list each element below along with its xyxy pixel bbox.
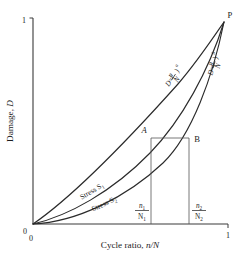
stress-s2-curve xyxy=(33,22,224,224)
curves-group xyxy=(33,22,224,224)
fraction-n2-numerator-subscript: 2 xyxy=(200,205,203,211)
y-axis-title-prefix: Damage, xyxy=(5,107,15,142)
stress-s2-label-group: Stress S2 xyxy=(90,194,118,214)
fraction-n1-numerator-subscript: 1 xyxy=(143,205,146,211)
fraction-n1-numerator: n1 xyxy=(139,202,146,211)
axes-group xyxy=(30,18,229,228)
fraction-n2-numerator: n2 xyxy=(196,202,203,211)
y-axis-min-label: 0 xyxy=(23,227,27,236)
construction-lines-group xyxy=(151,138,189,224)
fraction-n2-group: n2 N2 xyxy=(192,202,206,222)
figure-svg: 1 0 0 1 Cycle ratio, n/N Damage, D P A B… xyxy=(0,0,250,257)
x-axis-title: Cycle ratio, n/N xyxy=(101,240,160,250)
upper-curve xyxy=(33,22,224,224)
fraction-n1-denominator: N1 xyxy=(138,213,146,222)
fraction-n1-group: n1 N1 xyxy=(135,202,149,222)
stress-s2-label: Stress S2 xyxy=(90,194,118,214)
right-equation-group: D=( n N ) b xyxy=(203,50,226,78)
x-axis-max-label: 1 xyxy=(226,231,230,240)
x-axis-min-label: 0 xyxy=(29,234,33,243)
stress-s1-curve xyxy=(33,22,224,224)
point-p-label: P xyxy=(228,10,233,20)
x-axis-title-prefix: Cycle ratio, xyxy=(101,240,146,250)
y-axis-title: Damage, D xyxy=(5,100,15,142)
damage-cycle-ratio-figure: 1 0 0 1 Cycle ratio, n/N Damage, D P A B… xyxy=(0,0,250,257)
fraction-n1-denominator-subscript: 1 xyxy=(143,216,146,222)
y-axis-title-symbol: D xyxy=(5,100,15,108)
x-axis-title-symbol: n/N xyxy=(146,240,160,250)
point-b-label: B xyxy=(194,134,200,144)
y-axis-max-label: 1 xyxy=(22,16,26,25)
fraction-n2-denominator-subscript: 2 xyxy=(200,216,203,222)
point-a-label: A xyxy=(140,125,147,135)
fraction-n2-denominator: N2 xyxy=(195,213,203,222)
